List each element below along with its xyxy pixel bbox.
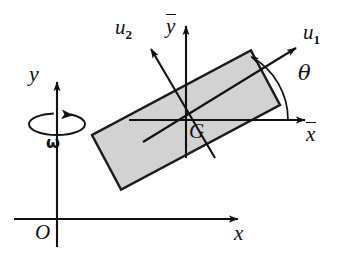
axis-u1-base: u (303, 20, 314, 44)
body-x-label-text: x (306, 124, 315, 145)
diagram-svg (0, 0, 351, 256)
axis-u2-label: u2 (115, 17, 132, 41)
body-y-label: y (166, 16, 175, 37)
figure-canvas: y ω O x x y u1 u2 G θ (0, 0, 351, 256)
angular-velocity-label: ω (46, 135, 60, 151)
axis-u1-subscript: 1 (314, 32, 321, 47)
body-x-label: x (306, 124, 315, 145)
global-origin-label: O (35, 222, 50, 243)
theta-label: θ (298, 63, 311, 84)
axis-u2-subscript: 2 (126, 27, 133, 42)
axis-u2-base: u (115, 15, 126, 39)
global-y-label: y (29, 63, 39, 85)
center-of-mass-label: G (189, 121, 204, 142)
global-x-label: x (234, 223, 243, 244)
body-y-label-text: y (166, 16, 175, 37)
axis-u1-label: u1 (303, 22, 320, 46)
